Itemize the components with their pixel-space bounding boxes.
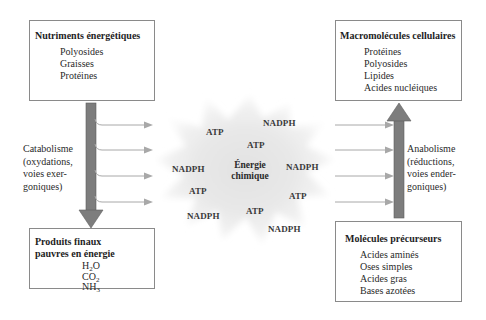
- list-item: Graisses: [60, 58, 103, 70]
- energy-nutrients-list: Polyosides Graisses Protéines: [60, 46, 103, 82]
- cell-macromolecules-title: Macromolécules cellulaires: [340, 30, 455, 42]
- list-item: Oses simples: [360, 261, 419, 273]
- atp-label: ATP: [247, 140, 265, 150]
- anabolism-arrowheads: [385, 122, 394, 206]
- list-item: Protéines: [60, 70, 103, 82]
- cell-macromolecules-box: Macromolécules cellulaires Protéines Pol…: [335, 20, 462, 101]
- atp-label: ATP: [189, 186, 207, 196]
- list-item: Acides nucléiques: [364, 82, 437, 94]
- precursor-molecules-list: Acides aminés Oses simples Acides gras B…: [360, 249, 419, 297]
- nadph-label: NADPH: [172, 164, 205, 174]
- anabolism-label: Anabolisme (réductions, voies ender- gon…: [407, 143, 456, 193]
- catabolism-energy-arrows: [95, 119, 146, 202]
- list-item: Bases azotées: [360, 285, 419, 297]
- anabolism-energy-arrows: [335, 125, 387, 202]
- precursor-molecules-box: Molécules précurseurs Acides aminés Oses…: [335, 221, 462, 302]
- catabolism-label: Catabolisme (oxydations, voies exer- gon…: [23, 143, 73, 193]
- end-products-box: Produits finaux pauvres en énergie H2O C…: [29, 228, 155, 289]
- catabolism-arrow: [79, 103, 103, 228]
- list-item: NH3: [82, 282, 100, 293]
- nadph-label: NADPH: [187, 211, 220, 221]
- end-products-list: H2O CO2 NH3: [82, 261, 100, 293]
- nadph-label: NADPH: [263, 118, 296, 128]
- precursor-molecules-title: Molécules précurseurs: [345, 233, 441, 245]
- list-item: Protéines: [364, 46, 437, 58]
- end-products-title-line1: Produits finaux: [35, 236, 101, 248]
- atp-label: ATP: [289, 191, 307, 201]
- cell-macromolecules-list: Protéines Polyosides Lipides Acides nucl…: [364, 46, 437, 94]
- list-item: Lipides: [364, 70, 437, 82]
- atp-label: ATP: [206, 127, 224, 137]
- energy-nutrients-box: Nutriments énergétiques Polyosides Grais…: [29, 20, 155, 101]
- list-item: Acides gras: [360, 273, 419, 285]
- list-item: Acides aminés: [360, 249, 419, 261]
- nadph-label: NADPH: [286, 162, 319, 172]
- nadph-label: NADPH: [268, 224, 301, 234]
- energy-nutrients-title: Nutriments énergétiques: [35, 30, 140, 42]
- end-products-title-line2: pauvres en énergie: [35, 248, 115, 260]
- atp-label: ATP: [246, 206, 264, 216]
- list-item: Polyosides: [364, 58, 437, 70]
- catabolism-arrowheads: [144, 122, 153, 206]
- chemical-energy-label: Énergie chimique: [224, 160, 276, 182]
- list-item: Polyosides: [60, 46, 103, 58]
